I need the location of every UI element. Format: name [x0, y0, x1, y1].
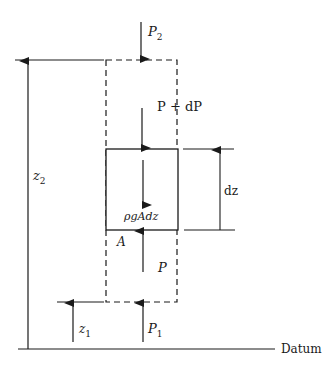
- datum-label: Datum: [281, 342, 322, 356]
- z2-label: z2: [32, 168, 46, 186]
- diagram-canvas: P2 P + dP ρgAdz A P P1 z2 z1 dz Datum: [0, 0, 331, 369]
- p2-label: P2: [147, 24, 162, 42]
- p-plus-dp-label: P + dP: [157, 99, 202, 114]
- weight-label: ρgAdz: [123, 210, 158, 223]
- dz-label: dz: [224, 184, 238, 198]
- p1-label: P1: [147, 321, 162, 339]
- area-label: A: [116, 235, 126, 249]
- z1-label: z1: [78, 322, 91, 339]
- p-label: P: [157, 260, 167, 275]
